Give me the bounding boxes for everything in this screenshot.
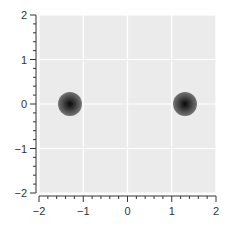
x-tick-label: 1: [169, 205, 175, 217]
x-tick-label: 2: [213, 205, 219, 217]
y-tick-label: 2: [21, 9, 27, 21]
y-tick-label: 0: [21, 98, 27, 110]
contour-chart: −2−1012 −2−1012: [0, 0, 233, 231]
x-tick-label: −1: [77, 205, 90, 217]
y-tick-label: −1: [14, 143, 27, 155]
y-tick-label: 1: [21, 54, 27, 66]
y-tick-label: −2: [14, 187, 27, 199]
x-tick-label: 0: [124, 205, 130, 217]
y-tick-labels: −2−1012: [14, 9, 27, 199]
x-tick-labels: −2−1012: [33, 205, 219, 217]
x-tick-label: −2: [33, 205, 46, 217]
